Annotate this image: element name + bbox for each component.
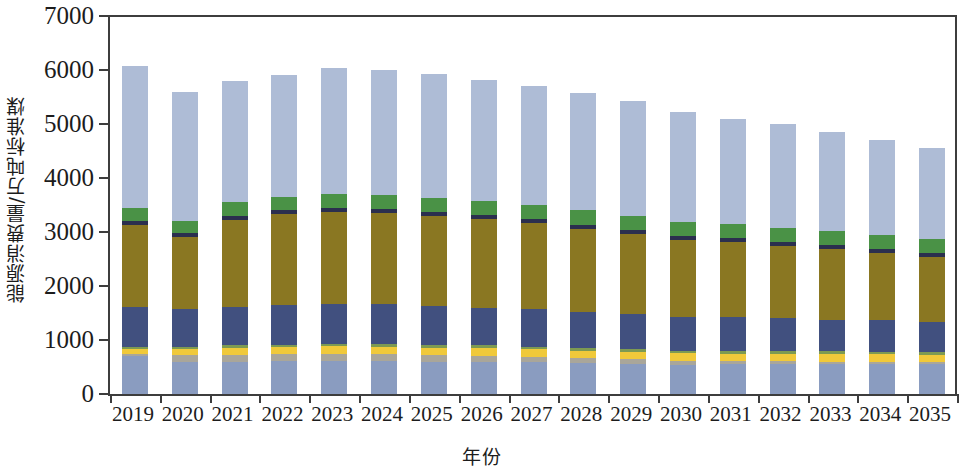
bar-segment: [570, 93, 596, 210]
y-axis-tick: [99, 69, 110, 71]
bar-stack[interactable]: [222, 81, 248, 394]
bar-segment: [570, 363, 596, 394]
bar-segment: [321, 194, 347, 208]
bar-segment: [819, 132, 845, 231]
bar-segment: [570, 229, 596, 312]
bar-segment: [521, 205, 547, 219]
bar-segment: [172, 309, 198, 347]
bar-segment: [819, 364, 845, 394]
bar-segment: [371, 304, 397, 343]
y-axis-tick: [99, 285, 110, 287]
bar-segment: [770, 124, 796, 228]
bar-segment: [670, 112, 696, 222]
bar-segment: [819, 231, 845, 245]
bar-segment: [819, 354, 845, 362]
bar-segment: [271, 354, 297, 361]
bar-segment: [471, 348, 497, 356]
y-axis-tick: [99, 393, 110, 395]
bar-segment: [919, 148, 945, 239]
bar-segment: [869, 354, 895, 362]
plot-area: [108, 16, 957, 396]
y-axis-tick: [99, 339, 110, 341]
bar-segment: [321, 304, 347, 344]
bar-stack[interactable]: [371, 70, 397, 394]
bar-stack[interactable]: [620, 101, 646, 394]
bar-segment: [172, 92, 198, 221]
bar-stack[interactable]: [670, 112, 696, 394]
bar-segment: [869, 235, 895, 249]
bar-segment: [222, 220, 248, 307]
bar-segment: [371, 70, 397, 195]
bar-stack[interactable]: [720, 119, 746, 394]
bar-stack[interactable]: [421, 74, 447, 394]
bar-segment: [321, 212, 347, 304]
bar-segment: [172, 221, 198, 233]
bar-segment: [770, 246, 796, 318]
bar-segment: [271, 361, 297, 394]
bar-segment: [670, 353, 696, 361]
bar-segment: [371, 354, 397, 361]
bar-segment: [819, 320, 845, 352]
bar-segment: [919, 364, 945, 394]
bar-segment: [222, 307, 248, 346]
bar-segment: [321, 68, 347, 193]
bar-segment: [570, 312, 596, 348]
bar-segment: [720, 242, 746, 317]
bar-segment: [471, 308, 497, 346]
bar-segment: [869, 140, 895, 236]
bar-segment: [919, 322, 945, 352]
y-axis-tick: [99, 231, 110, 233]
bar-segment: [670, 317, 696, 351]
bar-segment: [471, 80, 497, 201]
bar-stack[interactable]: [321, 68, 347, 394]
bar-segment: [421, 74, 447, 197]
bar-segment: [122, 307, 148, 347]
bar-stack[interactable]: [770, 124, 796, 394]
y-axis-tick: [99, 177, 110, 179]
bar-segment: [620, 352, 646, 360]
bar-segment: [869, 364, 895, 394]
y-axis-tick: [99, 15, 110, 17]
bar-segment: [122, 356, 148, 394]
bar-segment: [670, 240, 696, 317]
bar-segment: [620, 314, 646, 349]
bar-segment: [122, 225, 148, 308]
bar-segment: [670, 365, 696, 394]
bar-segment: [521, 362, 547, 394]
bar-segment: [271, 347, 297, 354]
bar-segment: [720, 317, 746, 350]
bar-segment: [371, 347, 397, 355]
bar-segment: [521, 86, 547, 205]
bar-stack[interactable]: [271, 75, 297, 394]
bar-segment: [471, 219, 497, 308]
bar-segment: [720, 354, 746, 362]
bar-segment: [620, 101, 646, 215]
bar-segment: [222, 202, 248, 216]
bar-segment: [321, 361, 347, 394]
bar-segment: [919, 239, 945, 253]
bar-stack[interactable]: [919, 148, 945, 394]
bar-segment: [720, 224, 746, 238]
bar-stack[interactable]: [869, 140, 895, 394]
bar-stack[interactable]: [570, 93, 596, 394]
bar-segment: [321, 354, 347, 361]
bar-segment: [271, 214, 297, 305]
bar-segment: [271, 197, 297, 211]
bar-segment: [222, 348, 248, 355]
bar-segment: [570, 351, 596, 359]
bar-stack[interactable]: [471, 80, 497, 394]
bar-segment: [222, 362, 248, 394]
y-axis-title: 能源消费量/万吨标准煤: [0, 0, 30, 400]
bar-stack[interactable]: [172, 92, 198, 394]
bar-segment: [670, 222, 696, 236]
bar-stack[interactable]: [521, 86, 547, 394]
bar-stack[interactable]: [819, 132, 845, 394]
bar-stack[interactable]: [122, 66, 148, 394]
bar-segment: [570, 210, 596, 224]
bar-segment: [421, 348, 447, 356]
x-axis-title: 年份: [0, 442, 963, 469]
bar-segment: [819, 249, 845, 319]
bar-segment: [271, 305, 297, 344]
bar-segment: [172, 355, 198, 362]
bar-segment: [770, 318, 796, 351]
